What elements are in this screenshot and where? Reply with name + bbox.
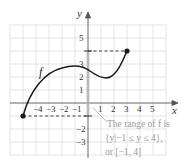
svg-text:1: 1: [79, 85, 84, 95]
svg-text:−3: −3: [46, 104, 56, 114]
x-axis-label: x: [171, 104, 177, 116]
function-graph: −4 −3 −2 −1 1 2 3 4 5 5 3 2 1 −2 −3 y x …: [0, 0, 189, 167]
svg-text:2: 2: [79, 72, 84, 82]
svg-text:−4: −4: [33, 104, 43, 114]
svg-text:3: 3: [79, 59, 84, 69]
svg-text:2: 2: [111, 104, 116, 114]
svg-text:5: 5: [79, 33, 84, 43]
y-axis-label: y: [76, 7, 82, 19]
svg-text:−2: −2: [76, 124, 86, 134]
svg-text:4: 4: [137, 104, 142, 114]
svg-text:The range of f is: The range of f is: [107, 119, 170, 129]
endpoint-left: [20, 113, 25, 118]
range-annotation: The range of f is {y|−1 ≤ y ≤ 4}, or [−1…: [105, 119, 170, 157]
svg-text:3: 3: [124, 104, 129, 114]
endpoint-right: [124, 48, 129, 53]
svg-text:5: 5: [150, 104, 155, 114]
svg-text:or [−1, 4]: or [−1, 4]: [105, 147, 141, 157]
svg-text:−1: −1: [72, 104, 82, 114]
range-bar: [87, 51, 90, 115]
svg-text:1: 1: [98, 104, 103, 114]
svg-text:{y|−1 ≤ y ≤ 4},: {y|−1 ≤ y ≤ 4},: [105, 133, 163, 143]
svg-text:−3: −3: [76, 137, 86, 147]
svg-text:−2: −2: [59, 104, 69, 114]
